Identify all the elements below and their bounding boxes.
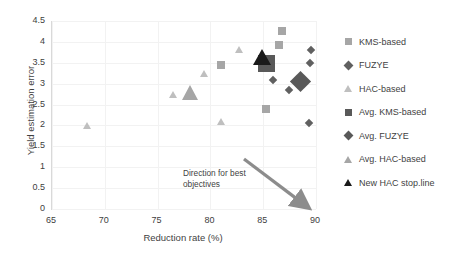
data-point-square	[217, 61, 225, 69]
legend-marker-triangle-icon	[340, 83, 356, 95]
data-point-triangle	[200, 70, 208, 77]
legend-label: New HAC stop.line	[359, 178, 435, 188]
data-point-square	[278, 27, 286, 35]
chart-legend: KMS-basedFUZYEHAC-basedAvg. KMS-basedAvg…	[340, 30, 455, 195]
gridline-horizontal	[52, 125, 316, 126]
direction-annotation: Direction for best objectives	[183, 168, 265, 190]
x-axis-tick-label: 70	[89, 215, 119, 225]
x-axis-tick-label: 65	[36, 215, 66, 225]
y-axis-tick-label: 4	[19, 37, 45, 46]
data-point-diamond	[305, 59, 313, 67]
data-point-triangle	[253, 49, 271, 65]
y-axis-tick-label: 4.5	[19, 16, 45, 25]
gridline-vertical	[52, 21, 53, 209]
gridline-vertical	[105, 21, 106, 209]
legend-item[interactable]: HAC-based	[340, 77, 455, 101]
legend-label: FUZYE	[359, 60, 389, 70]
data-point-triangle	[217, 118, 225, 125]
annotation-line-1: Direction for best	[183, 168, 265, 179]
data-point-triangle	[83, 122, 91, 129]
legend-item[interactable]: New HAC stop.line	[340, 171, 455, 195]
y-axis-tick-label: 1	[19, 162, 45, 171]
legend-marker-square-icon	[340, 36, 356, 48]
annotation-line-2: objectives	[183, 179, 265, 190]
data-point-diamond	[284, 86, 292, 94]
legend-label: HAC-based	[359, 84, 406, 94]
legend-item[interactable]: KMS-based	[340, 30, 455, 54]
legend-item[interactable]: Avg. KMS-based	[340, 101, 455, 125]
gridline-horizontal	[52, 146, 316, 147]
x-axis-tick-label: 85	[247, 215, 277, 225]
legend-label: Avg. KMS-based	[359, 107, 426, 117]
data-point-triangle	[169, 91, 177, 98]
scatter-chart: Yield estimation error Reduction rate (%…	[0, 0, 455, 259]
gridline-horizontal	[52, 21, 316, 22]
y-axis-tick-label: 3.5	[19, 58, 45, 67]
y-axis-tick-label: 0	[19, 204, 45, 213]
x-axis-tick-label: 90	[300, 215, 330, 225]
x-axis-tick-label: 80	[194, 215, 224, 225]
data-point-triangle	[182, 85, 198, 100]
gridline-vertical	[316, 21, 317, 209]
legend-item[interactable]: FUZYE	[340, 54, 455, 78]
data-point-square	[275, 41, 283, 49]
x-axis-tick-label: 75	[142, 215, 172, 225]
gridline-horizontal	[52, 105, 316, 106]
x-axis-title: Reduction rate (%)	[51, 232, 315, 243]
gridline-horizontal	[52, 63, 316, 64]
y-axis-tick-label: 3	[19, 79, 45, 88]
legend-marker-diamond-icon	[340, 59, 356, 71]
legend-label: KMS-based	[359, 37, 406, 47]
y-axis-tick-label: 2	[19, 120, 45, 129]
legend-marker-diamond-icon	[340, 130, 356, 142]
data-point-square	[262, 105, 270, 113]
data-point-diamond	[306, 46, 314, 54]
legend-label: Avg. HAC-based	[359, 154, 426, 164]
data-point-triangle	[235, 46, 243, 53]
y-axis-tick-label: 0.5	[19, 183, 45, 192]
legend-marker-square-icon	[340, 106, 356, 118]
gridline-vertical	[158, 21, 159, 209]
legend-marker-triangle-icon	[340, 177, 356, 189]
legend-marker-triangle-icon	[340, 153, 356, 165]
legend-item[interactable]: Avg. HAC-based	[340, 148, 455, 172]
y-axis-tick-label: 2.5	[19, 100, 45, 109]
y-axis-tick-label: 1.5	[19, 141, 45, 150]
legend-item[interactable]: Avg. FUZYE	[340, 124, 455, 148]
legend-label: Avg. FUZYE	[359, 131, 409, 141]
